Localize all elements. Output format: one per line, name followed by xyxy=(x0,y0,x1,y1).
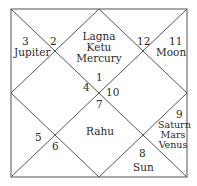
chart-frame xyxy=(0,0,197,186)
house-1-planets: Lagna Ketu Mercury xyxy=(74,31,124,64)
house-6-number: 6 xyxy=(52,141,59,152)
house-5-number: 5 xyxy=(35,132,42,143)
planet-jupiter: Jupiter xyxy=(14,47,51,58)
planet-moon: Moon xyxy=(156,47,186,58)
house-1-number: 1 xyxy=(96,72,103,83)
house-8-number: 8 xyxy=(139,148,146,159)
house-12-number: 12 xyxy=(137,36,150,47)
house-4-number: 4 xyxy=(83,82,90,93)
house-2-number: 2 xyxy=(50,36,57,47)
house-7-number: 7 xyxy=(96,99,103,110)
planet-venus: Venus xyxy=(158,140,188,150)
planet-mercury: Mercury xyxy=(74,53,124,64)
planet-sun: Sun xyxy=(133,162,154,173)
house-9-planets: Saturn Mars Venus xyxy=(158,120,188,150)
planet-rahu: Rahu xyxy=(86,126,114,137)
house-10-number: 10 xyxy=(106,87,119,98)
